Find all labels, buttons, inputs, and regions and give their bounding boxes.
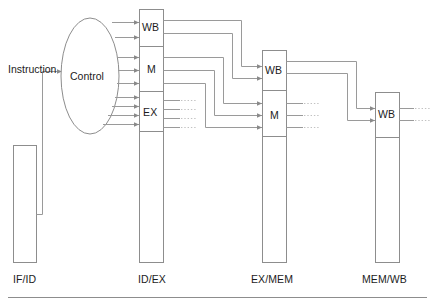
- mem-wb-segment-label-wb: WB: [378, 108, 395, 120]
- id-ex-segment-label-m: M: [147, 63, 156, 75]
- id-ex-to-ex-mem-wb-wires: [164, 21, 263, 79]
- mem-wb-output-stubs: [400, 109, 431, 121]
- stage-label-mem-wb: MEM/WB: [362, 273, 407, 285]
- register-id-ex: [140, 10, 164, 263]
- id-ex-to-ex-mem-m-wires: [164, 58, 263, 128]
- instruction-input-label: Instruction: [8, 63, 56, 75]
- ex-mem-to-mem-wb-wb-wires: [287, 62, 376, 121]
- pipeline-control-diagram: Instruction Control WB M EX WB M WB IF/I…: [0, 0, 435, 306]
- control-unit-label: Control: [70, 70, 104, 82]
- stage-label-if-id: IF/ID: [13, 273, 36, 285]
- ex-mem-segment-label-wb: WB: [265, 64, 282, 76]
- register-ex-mem: [263, 51, 287, 263]
- id-ex-segment-label-wb: WB: [142, 21, 159, 33]
- register-if-id: [14, 146, 37, 263]
- stage-label-ex-mem: EX/MEM: [251, 273, 293, 285]
- diagram-canvas: [0, 0, 435, 306]
- id-ex-segment-label-ex: EX: [143, 106, 157, 118]
- ex-mem-m-output-stubs: [287, 104, 320, 128]
- instruction-feed-wire: [37, 72, 63, 215]
- ex-mem-segment-label-m: M: [270, 109, 279, 121]
- stage-label-id-ex: ID/EX: [138, 273, 166, 285]
- id-ex-ex-output-stubs: [164, 101, 197, 128]
